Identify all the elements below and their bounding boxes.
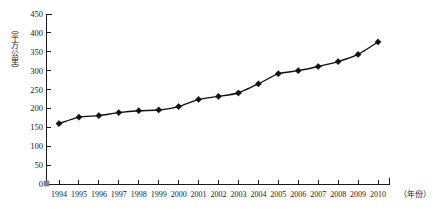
data-point-marker — [335, 59, 341, 65]
data-point-marker — [255, 81, 261, 87]
x-axis-tick-label: 2002 — [211, 190, 227, 199]
chart-container: （平方公里） 050100150200250300350400450 19941… — [0, 0, 436, 214]
x-axis-tick-label: 1994 — [51, 190, 67, 199]
origin-marker — [44, 181, 49, 186]
x-axis-tick-label: 2006 — [290, 190, 306, 199]
x-axis-tick-label: 2008 — [330, 190, 346, 199]
x-axis-tick-label: 1996 — [91, 190, 107, 199]
x-axis-tick-label: 1999 — [151, 190, 167, 199]
data-point-marker — [56, 120, 62, 126]
x-axis-label-group: 1994199519961997199819992000200120022003… — [51, 190, 386, 199]
x-axis-tick-label: 2010 — [370, 190, 386, 199]
y-axis-tick-label: 400 — [30, 28, 43, 38]
x-axis-tick-label: 2004 — [250, 190, 266, 199]
x-axis-tick-label: 1998 — [131, 190, 147, 199]
data-point-marker — [275, 71, 281, 77]
y-axis-tick-label: 450 — [30, 9, 43, 19]
line-chart: 050100150200250300350400450 199419951996… — [0, 0, 436, 214]
data-point-marker — [76, 114, 82, 120]
x-axis-tick-group — [59, 180, 378, 185]
x-axis-tick-label: 2007 — [310, 190, 326, 199]
x-axis-tick-label: 2009 — [350, 190, 366, 199]
data-point-marker — [295, 68, 301, 74]
y-axis-tick-group — [47, 14, 51, 184]
y-axis-tick-label: 0 — [39, 179, 43, 189]
y-axis-label-group: 050100150200250300350400450 — [30, 9, 43, 189]
data-point-marker — [315, 63, 321, 69]
x-axis-title: （年份） — [399, 189, 431, 199]
x-axis-tick-label: 2000 — [171, 190, 187, 199]
data-point-marker — [156, 107, 162, 113]
x-axis-tick-label: 1995 — [71, 190, 87, 199]
series-marker-group — [56, 39, 381, 127]
x-axis-tick-label: 1997 — [111, 190, 127, 199]
data-point-marker — [215, 93, 221, 99]
y-axis-tick-label: 100 — [30, 141, 43, 151]
y-axis-tick-label: 350 — [30, 47, 43, 57]
data-point-marker — [176, 103, 182, 109]
x-axis-tick-label: 2001 — [191, 190, 207, 199]
x-axis-tick-label: 2003 — [230, 190, 246, 199]
data-point-marker — [355, 51, 361, 57]
y-axis-tick-label: 50 — [35, 160, 44, 170]
data-point-marker — [116, 110, 122, 116]
y-axis-tick-label: 150 — [30, 122, 43, 132]
data-point-marker — [136, 108, 142, 114]
y-axis-tick-label: 300 — [30, 66, 43, 76]
y-axis-tick-label: 250 — [30, 85, 43, 95]
data-point-marker — [195, 96, 201, 102]
data-point-marker — [235, 90, 241, 96]
x-axis-tick-label: 2005 — [270, 190, 286, 199]
series-line-path — [59, 42, 378, 124]
y-axis-tick-label: 200 — [30, 103, 43, 113]
data-point-marker — [96, 113, 102, 119]
